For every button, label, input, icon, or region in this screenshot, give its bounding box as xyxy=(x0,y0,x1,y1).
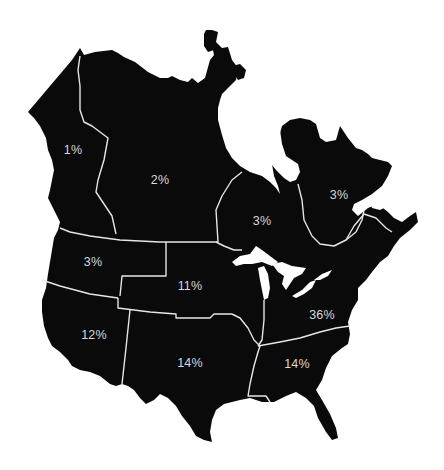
north-america-map xyxy=(0,0,444,470)
region-label-ontario: 3% xyxy=(253,214,271,228)
region-label-prairie-canada: 2% xyxy=(151,173,169,187)
gulf-st-lawrence xyxy=(370,194,392,210)
region-label-us-northeast: 36% xyxy=(309,308,335,322)
region-label-us-southwest: 12% xyxy=(81,328,107,342)
region-label-us-north-central: 11% xyxy=(178,279,203,293)
region-label-quebec-atlantic: 3% xyxy=(330,188,348,202)
region-label-us-northwest: 3% xyxy=(84,255,102,269)
region-label-pacific-canada: 1% xyxy=(64,143,82,157)
region-label-us-southeast: 14% xyxy=(284,357,310,371)
region-label-us-south-central: 14% xyxy=(177,356,203,370)
